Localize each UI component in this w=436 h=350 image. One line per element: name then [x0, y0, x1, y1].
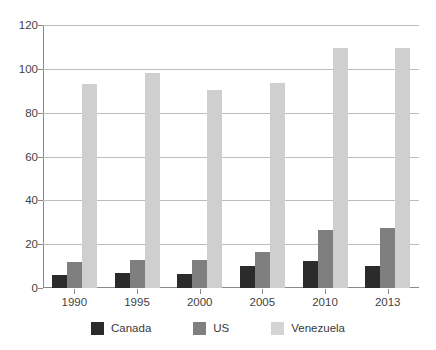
bar-chart: 020406080100120 199019952000200520102013… [0, 0, 436, 350]
x-tick-mark [200, 289, 201, 294]
legend-swatch-icon [91, 322, 104, 335]
y-tick-label: 80 [4, 107, 38, 118]
plot-area [43, 25, 419, 288]
x-tick-mark [74, 289, 75, 294]
x-axis-cell: 1995 [106, 289, 169, 313]
x-tick-label: 2013 [356, 296, 419, 309]
bar-venezuela-1990 [82, 84, 97, 288]
x-axis: 199019952000200520102013 [43, 289, 419, 313]
x-tick-mark [137, 289, 138, 294]
bar-venezuela-2000 [207, 90, 222, 288]
legend-label: Canada [111, 322, 151, 335]
bar-us-2005 [255, 252, 270, 288]
legend-swatch-icon [271, 322, 284, 335]
bar-canada-2013 [365, 266, 380, 288]
y-tick-label: 60 [4, 151, 38, 162]
x-tick-mark [325, 289, 326, 294]
bar-group-1990 [43, 25, 106, 288]
y-tick-label: 100 [4, 63, 38, 74]
bar-canada-2010 [303, 261, 318, 288]
chart-legend: CanadaUSVenezuela [0, 322, 436, 335]
legend-label: Venezuela [291, 322, 345, 335]
bar-us-2000 [192, 260, 207, 288]
bar-canada-1995 [115, 273, 130, 288]
bar-us-1990 [67, 262, 82, 288]
legend-item-canada[interactable]: Canada [91, 322, 151, 335]
y-tick-label: 0 [4, 283, 38, 294]
legend-item-us[interactable]: US [193, 322, 229, 335]
bar-venezuela-2005 [270, 83, 285, 288]
y-tick-label: 40 [4, 195, 38, 206]
bar-venezuela-2010 [333, 48, 348, 288]
x-tick-mark [262, 289, 263, 294]
bar-us-1995 [130, 260, 145, 288]
bar-group-2000 [168, 25, 231, 288]
legend-item-venezuela[interactable]: Venezuela [271, 322, 345, 335]
x-axis-cell: 2010 [294, 289, 357, 313]
x-tick-label: 1990 [43, 296, 106, 309]
y-tick-label: 120 [4, 20, 38, 31]
bar-group-2010 [294, 25, 357, 288]
bar-venezuela-2013 [395, 48, 410, 288]
bar-canada-2000 [177, 274, 192, 288]
x-axis-cell: 2013 [356, 289, 419, 313]
legend-label: US [213, 322, 229, 335]
x-axis-cell: 1990 [43, 289, 106, 313]
x-tick-label: 1995 [106, 296, 169, 309]
legend-swatch-icon [193, 322, 206, 335]
y-tick-label: 20 [4, 239, 38, 250]
bar-canada-2005 [240, 266, 255, 288]
bar-groups [43, 25, 419, 288]
bar-canada-1990 [52, 275, 67, 288]
y-axis: 020406080100120 [0, 25, 38, 288]
x-tick-label: 2010 [294, 296, 357, 309]
x-axis-cell: 2000 [168, 289, 231, 313]
bar-group-2013 [356, 25, 419, 288]
x-axis-cell: 2005 [231, 289, 294, 313]
bar-group-2005 [231, 25, 294, 288]
bar-us-2013 [380, 228, 395, 288]
x-tick-label: 2005 [231, 296, 294, 309]
x-tick-mark [388, 289, 389, 294]
bar-us-2010 [318, 230, 333, 288]
bar-group-1995 [106, 25, 169, 288]
bar-venezuela-1995 [145, 73, 160, 288]
x-tick-label: 2000 [168, 296, 231, 309]
